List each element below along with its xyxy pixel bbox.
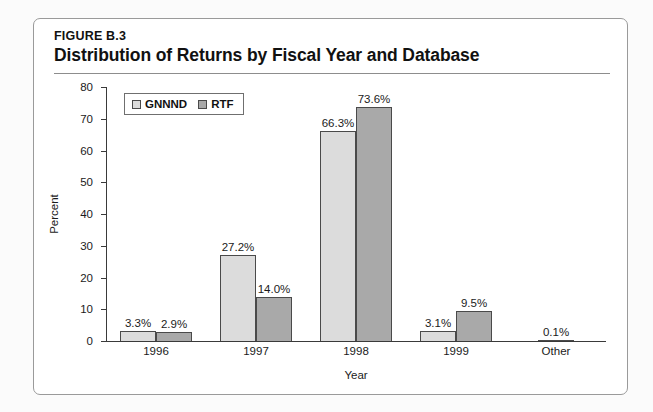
figure-number-label: FIGURE B.3 — [54, 29, 126, 43]
figure-card: FIGURE B.3 Distribution of Returns by Fi… — [33, 18, 628, 395]
figure-title: Distribution of Returns by Fiscal Year a… — [54, 45, 479, 66]
bar-value-label: 14.0% — [258, 283, 291, 295]
legend-label-rtf: RTF — [211, 98, 233, 110]
y-axis-tick-label: 60 — [80, 145, 93, 157]
bar-rtf-1999: 9.5% — [456, 311, 492, 341]
title-divider — [54, 73, 610, 74]
bar-gnnnd-1997: 27.2% — [220, 255, 256, 341]
bar-group: 3.3%2.9%1996 — [106, 87, 206, 341]
y-axis-tick-label: 30 — [80, 240, 93, 252]
x-axis-category-label: 1998 — [306, 345, 406, 357]
x-axis-category-label: 1997 — [206, 345, 306, 357]
bar-value-label: 3.1% — [425, 317, 451, 329]
bar-group: 66.3%73.6%1998 — [306, 87, 406, 341]
bar-gnnnd-1998: 66.3% — [320, 131, 356, 342]
legend-label-gnnnd: GNNND — [145, 98, 187, 110]
chart-legend: GNNND RTF — [124, 93, 244, 115]
bar-value-label: 66.3% — [322, 117, 355, 129]
y-axis-tick-label: 80 — [80, 81, 93, 93]
legend-swatch-icon-gnnnd — [132, 100, 141, 109]
x-axis-category-label: Other — [506, 345, 606, 357]
bar-gnnnd-other: 0.1% — [538, 340, 574, 342]
x-axis-title: Year — [106, 369, 606, 381]
bar-value-label: 73.6% — [358, 93, 391, 105]
y-axis-tick-label: 50 — [80, 176, 93, 188]
bar-value-label: 9.5% — [461, 297, 487, 309]
bar-group: 27.2%14.0%1997 — [206, 87, 306, 341]
x-axis-line — [106, 341, 606, 342]
figure-screenshot: FIGURE B.3 Distribution of Returns by Fi… — [0, 0, 653, 412]
y-axis-tick: 0 — [101, 341, 106, 342]
x-axis-category-label: 1999 — [406, 345, 506, 357]
legend-item-gnnnd: GNNND — [132, 98, 187, 110]
bar-value-label: 2.9% — [161, 318, 187, 330]
y-axis-tick-label: 20 — [80, 272, 93, 284]
bar-value-label: 27.2% — [222, 241, 255, 253]
x-axis-category-label: 1996 — [106, 345, 206, 357]
bar-rtf-1998: 73.6% — [356, 107, 392, 341]
bar-rtf-1996: 2.9% — [156, 332, 192, 341]
y-axis-tick-label: 0 — [87, 335, 93, 347]
legend-item-rtf: RTF — [198, 98, 233, 110]
bar-rtf-1997: 14.0% — [256, 297, 292, 341]
y-axis-tick-label: 40 — [80, 208, 93, 220]
bar-gnnnd-1999: 3.1% — [420, 331, 456, 341]
y-axis-tick-label: 70 — [80, 113, 93, 125]
bar-value-label: 0.1% — [543, 326, 569, 338]
bar-group: 0.1%Other — [506, 87, 606, 341]
y-axis-title: Percent — [48, 194, 60, 234]
bar-chart-plot-area: Percent Year 01020304050607080 3.3%2.9%1… — [106, 87, 606, 341]
bar-group: 3.1%9.5%1999 — [406, 87, 506, 341]
bar-value-label: 3.3% — [125, 317, 151, 329]
y-axis-tick-label: 10 — [80, 303, 93, 315]
bar-gnnnd-1996: 3.3% — [120, 331, 156, 341]
legend-swatch-icon-rtf — [198, 100, 207, 109]
